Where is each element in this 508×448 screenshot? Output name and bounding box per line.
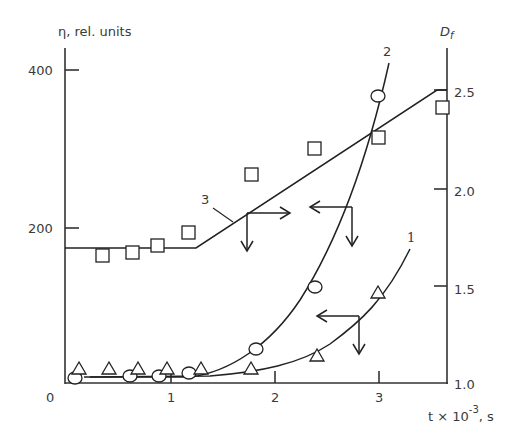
y-right-title: Df: [440, 24, 455, 41]
y-left-title: η, rel. units: [58, 24, 132, 39]
rtick-1-0: 1.0: [454, 377, 475, 392]
axes: [65, 48, 448, 384]
series-3-markers: [96, 101, 449, 262]
curve-2-label: 2: [383, 44, 391, 59]
xtick-1: 1: [167, 390, 175, 405]
series-2-markers: [68, 90, 385, 384]
curve-3-leader: [213, 208, 233, 222]
ytick-400: 400: [28, 63, 53, 78]
xtick-2: 2: [271, 390, 279, 405]
curve-3-label: 3: [201, 192, 209, 207]
rtick-2-5: 2.5: [454, 85, 475, 100]
curve-1-label: 1: [407, 230, 415, 245]
chart-canvas: 400 200 0 1 2 3 2.5 2.0 1.5 1.0 η, rel. …: [0, 0, 508, 448]
xtick-3: 3: [375, 390, 383, 405]
fit-curves: [65, 63, 447, 377]
rtick-1-5: 1.5: [454, 282, 475, 297]
curve-1: [90, 249, 410, 377]
x-title: t × 10-3, s: [428, 404, 494, 424]
ytick-200: 200: [28, 221, 53, 236]
series-1-markers: [72, 286, 385, 374]
curve-2: [84, 63, 389, 377]
rtick-2-0: 2.0: [454, 184, 475, 199]
ytick-0: 0: [46, 390, 54, 405]
